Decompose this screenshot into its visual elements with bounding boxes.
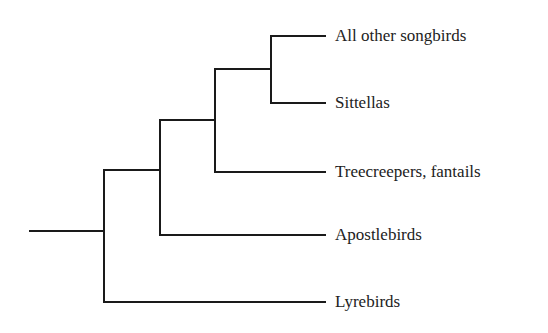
leaf-label-all-other-songbirds: All other songbirds	[335, 27, 466, 44]
leaf-label-treecreepers-fantails: Treecreepers, fantails	[335, 163, 481, 180]
leaf-label-sittellas: Sittellas	[335, 94, 390, 111]
leaf-label-apostlebirds: Apostlebirds	[335, 226, 422, 243]
leaf-label-lyrebirds: Lyrebirds	[335, 293, 400, 310]
